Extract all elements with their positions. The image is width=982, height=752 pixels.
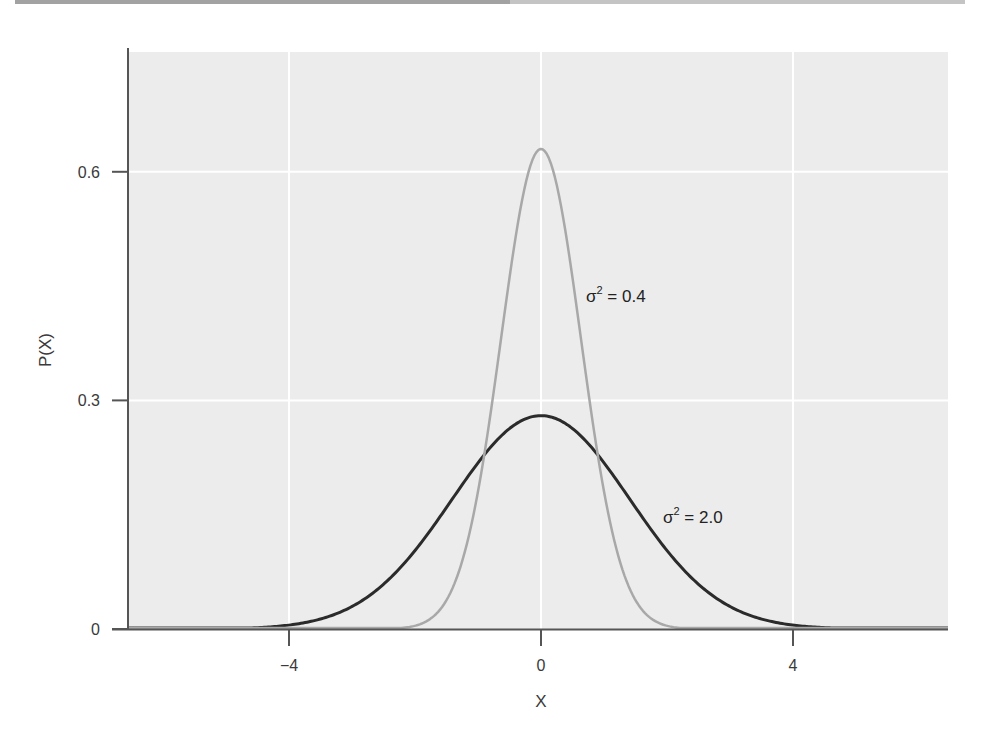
y-axis-title: P(X) (36, 333, 55, 367)
x-tick-label: 4 (789, 657, 798, 674)
x-axis-title: X (535, 692, 546, 711)
annotation-variance-2-0: σ2 = 2.0 (663, 505, 723, 527)
y-tick-label: 0.6 (78, 164, 100, 181)
y-axis-ticks: 00.30.6 (78, 164, 128, 638)
plot-panel (129, 52, 948, 629)
annotation-variance-0-4: σ2 = 0.4 (586, 284, 646, 306)
x-axis-ticks: −404 (280, 630, 798, 674)
x-tick-label: 0 (537, 657, 546, 674)
x-tick-label: −4 (280, 657, 298, 674)
y-tick-label: 0.3 (78, 392, 100, 409)
normal-distribution-chart: 00.30.6 −404 X P(X) σ2 = 0.4 σ2 = 2.0 (0, 0, 982, 752)
y-tick-label: 0 (91, 621, 100, 638)
